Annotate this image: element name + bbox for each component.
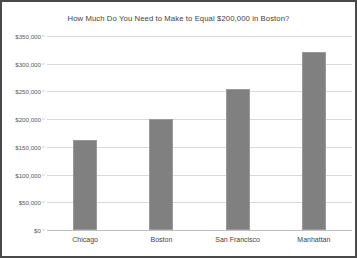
y-tick-mark bbox=[42, 230, 45, 231]
chart-canvas: How Much Do You Need to Make to Equal $2… bbox=[5, 5, 352, 253]
chart-frame: How Much Do You Need to Make to Equal $2… bbox=[0, 0, 357, 258]
y-tick-label: $50,000 bbox=[19, 199, 41, 206]
y-tick-label: $300,000 bbox=[15, 60, 41, 67]
y-tick-mark bbox=[42, 119, 45, 120]
y-tick-mark bbox=[42, 146, 45, 147]
y-tick-label: $150,000 bbox=[15, 143, 41, 150]
y-tick-label: $200,000 bbox=[15, 116, 41, 123]
y-tick-label: $250,000 bbox=[15, 88, 41, 95]
y-tick-mark bbox=[42, 174, 45, 175]
y-axis: $0$50,000$100,000$150,000$200,000$250,00… bbox=[5, 36, 45, 230]
bar-boston[interactable] bbox=[149, 119, 173, 230]
bar-series bbox=[47, 36, 352, 230]
plot-area bbox=[47, 36, 352, 230]
x-axis: ChicagoBostonSan FranciscoManhattan bbox=[47, 233, 352, 247]
x-tick-label: Chicago bbox=[72, 236, 98, 243]
chart-title: How Much Do You Need to Make to Equal $2… bbox=[5, 14, 352, 23]
bar-manhattan[interactable] bbox=[302, 52, 326, 230]
bar-san-francisco[interactable] bbox=[226, 89, 250, 230]
y-tick-label: $350,000 bbox=[15, 33, 41, 40]
y-tick-mark bbox=[42, 202, 45, 203]
x-tick-label: San Francisco bbox=[215, 236, 260, 243]
y-tick-mark bbox=[42, 91, 45, 92]
x-tick-label: Manhattan bbox=[297, 236, 330, 243]
y-tick-mark bbox=[42, 63, 45, 64]
y-tick-label: $100,000 bbox=[15, 171, 41, 178]
gridline bbox=[47, 230, 352, 231]
y-tick-label: $0 bbox=[34, 227, 41, 234]
y-tick-mark bbox=[42, 36, 45, 37]
x-tick-label: Boston bbox=[150, 236, 172, 243]
bar-chicago[interactable] bbox=[73, 140, 97, 230]
